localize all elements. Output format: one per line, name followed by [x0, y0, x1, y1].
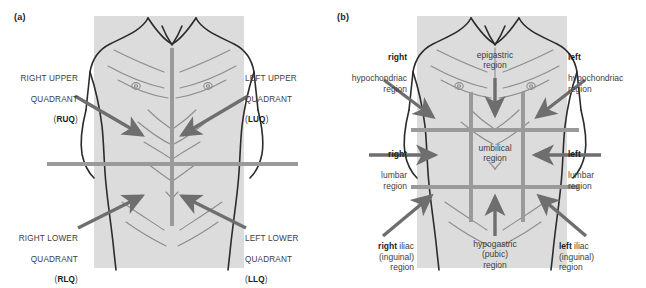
left-lumbar-bold: left	[568, 149, 646, 159]
label-right-upper-quadrant: RIGHT UPPER QUADRANT (RUQ)	[0, 64, 78, 135]
panel-b-nine-regions: (b)	[323, 0, 646, 280]
panel-a-letter: (a)	[14, 12, 26, 22]
intertubercular-line-b	[411, 185, 579, 189]
right-hypochondriac-bold: right	[323, 52, 407, 62]
label-right-lower-quadrant: RIGHT LOWER QUADRANT (RLQ)	[0, 224, 78, 288]
label-right-iliac-region: right iliac (inguinal) region	[326, 231, 414, 273]
label-hypogastric-region: hypogastric (pubic) region	[449, 239, 541, 270]
label-right-lumbar-region: right lumbar region	[323, 139, 407, 201]
right-hypochondriac-rest: hypochondriac region	[323, 73, 407, 94]
label-left-lower-quadrant: LEFT LOWER QUADRANT (LLQ)	[245, 224, 323, 288]
llq-line1: LEFT LOWER	[245, 234, 323, 244]
median-line-a	[170, 48, 174, 226]
panel-a-quadrants: (a)	[0, 0, 323, 280]
ruq-line2: QUADRANT	[0, 95, 78, 105]
llq-line2: QUADRANT	[245, 255, 323, 265]
ruq-line1: RIGHT UPPER	[0, 74, 78, 84]
label-right-hypochondriac-region: right hypochondriac region	[323, 42, 407, 104]
llq-abbrev: (LLQ)	[245, 275, 323, 285]
label-umbilical-region: umbilical region	[455, 143, 535, 164]
right-iliac-bold: right	[378, 241, 397, 251]
right-lumbar-rest: lumbar region	[323, 170, 407, 191]
label-epigastric-region: epigastric region	[455, 50, 535, 71]
ruq-abbrev: (RUQ)	[0, 115, 78, 125]
rlq-abbrev: (RLQ)	[0, 275, 78, 285]
rlq-line2: QUADRANT	[0, 255, 78, 265]
label-left-lumbar-region: left lumbar region	[568, 139, 646, 201]
label-left-hypochondriac-region: left hypochondriac region	[568, 42, 646, 104]
subcostal-line-b	[411, 128, 579, 132]
panel-b-letter: (b)	[337, 12, 349, 22]
right-lumbar-bold: right	[323, 149, 407, 159]
luq-line2: QUADRANT	[245, 95, 323, 105]
left-hypochondriac-bold: left	[568, 52, 646, 62]
label-left-iliac-region: left iliac (inguinal) region	[559, 231, 646, 273]
luq-abbrev: (LUQ)	[245, 115, 323, 125]
label-left-upper-quadrant: LEFT UPPER QUADRANT (LUQ)	[245, 64, 323, 135]
left-lumbar-rest: lumbar region	[568, 170, 646, 191]
rlq-line1: RIGHT LOWER	[0, 234, 78, 244]
left-iliac-bold: left	[559, 241, 572, 251]
luq-line1: LEFT UPPER	[245, 74, 323, 84]
left-hypochondriac-rest: hypochondriac region	[568, 73, 646, 94]
